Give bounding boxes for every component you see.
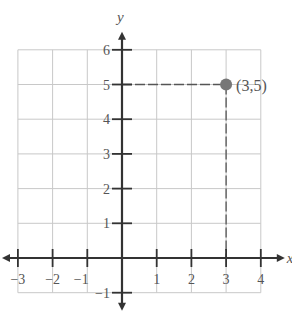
x-tick-label: 4 <box>257 272 264 287</box>
data-points: (3,5) <box>220 77 267 95</box>
x-tick-label: 3 <box>223 272 230 287</box>
y-tick-label: 4 <box>103 112 110 127</box>
y-tick-label: 6 <box>103 43 110 58</box>
y-axis-up-arrow-icon <box>118 32 126 40</box>
y-tick-label: 2 <box>103 182 110 197</box>
coordinate-plane: −3−2−11234−1123456 (3,5) x y <box>0 0 292 330</box>
y-tick-label: 3 <box>103 147 110 162</box>
y-axis-label: y <box>115 9 124 25</box>
x-tick-label: 2 <box>188 272 195 287</box>
y-tick-label: 5 <box>103 78 110 93</box>
x-axis-left-arrow-icon <box>2 254 10 262</box>
y-tick-label: 1 <box>103 216 110 231</box>
x-tick-label: −1 <box>74 272 89 287</box>
x-axis-label: x <box>286 250 292 266</box>
y-tick-label: −1 <box>95 286 110 301</box>
guide-lines <box>122 85 226 259</box>
point-label: (3,5) <box>236 77 267 95</box>
x-tick-label: 1 <box>153 272 160 287</box>
y-axis-down-arrow-icon <box>118 303 126 311</box>
axes <box>2 32 285 311</box>
x-axis-right-arrow-icon <box>277 254 285 262</box>
data-point <box>220 79 232 91</box>
x-tick-label: −2 <box>45 272 60 287</box>
x-tick-label: −3 <box>10 272 25 287</box>
